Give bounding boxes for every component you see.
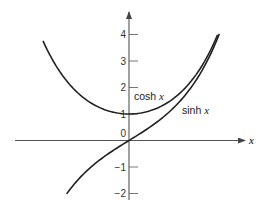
hyperbolic-functions-chart: 43210−1−2 x cosh xsinh x (0, 0, 265, 211)
cosh-x-label: cosh x (134, 90, 164, 102)
y-tick-label: 3 (120, 56, 126, 67)
y-tick-label: 0 (120, 128, 126, 139)
cosh-x-curve (43, 35, 218, 114)
y-tick-label: 4 (120, 29, 126, 40)
x-axis-label: x (248, 134, 254, 146)
y-tick-label: 2 (120, 82, 126, 93)
axes: 43210−1−2 x (15, 12, 254, 200)
y-tick-label: −1 (115, 162, 127, 173)
sinh-x-label: sinh x (182, 104, 209, 116)
y-tick-label: −2 (115, 188, 127, 199)
